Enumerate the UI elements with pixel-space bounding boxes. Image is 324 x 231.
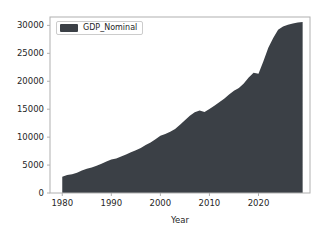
x-tick-label: 1980 xyxy=(51,198,73,208)
x-axis-label: Year xyxy=(170,215,190,225)
chart-figure: 19801990200020102020 0500010000150002000… xyxy=(0,0,324,231)
y-tick-label: 20000 xyxy=(17,76,44,86)
y-tick-label: 0 xyxy=(39,188,44,198)
legend-swatch-gdp-nominal xyxy=(60,24,78,32)
legend-label-gdp-nominal: GDP_Nominal xyxy=(83,24,137,32)
y-tick-label: 15000 xyxy=(17,104,44,114)
x-tick-label: 1990 xyxy=(101,198,123,208)
x-tick-label: 2000 xyxy=(150,198,172,208)
x-tick-label: 2010 xyxy=(199,198,221,208)
chart-legend[interactable]: GDP_Nominal xyxy=(56,21,143,35)
x-tick-label: 2020 xyxy=(248,198,270,208)
y-tick-label: 25000 xyxy=(17,48,44,58)
y-tick-label: 10000 xyxy=(17,132,44,142)
y-tick-label: 30000 xyxy=(17,20,44,30)
chart-canvas: 19801990200020102020 0500010000150002000… xyxy=(0,0,324,231)
y-tick-label: 5000 xyxy=(22,160,44,170)
